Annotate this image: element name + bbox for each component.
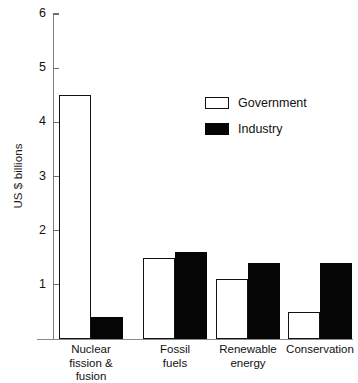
bar-government-0 xyxy=(59,95,91,339)
category-label-line: Conservation xyxy=(270,343,358,357)
y-axis-title: US $ billions xyxy=(12,116,24,236)
y-axis-tick xyxy=(53,68,59,69)
bar-government-2 xyxy=(216,279,248,339)
y-axis-tick-label: 6 xyxy=(24,7,46,20)
y-axis-tick xyxy=(53,13,59,14)
category-label-3: Conservation xyxy=(270,343,358,357)
chart-legend: Government Industry xyxy=(205,93,307,145)
bar-chart: US $ billions 123456 Nuclearfission &fus… xyxy=(0,0,358,383)
category-label-line: energy xyxy=(198,357,298,371)
y-axis-tick-label: 2 xyxy=(24,224,46,237)
x-axis-line xyxy=(37,339,353,340)
bar-industry-0 xyxy=(91,317,123,339)
y-axis-tick-label: 4 xyxy=(24,115,46,128)
filled-square-swatch-icon xyxy=(205,123,229,135)
y-axis-tick-label: 1 xyxy=(24,278,46,291)
y-axis-tick-label: 5 xyxy=(24,61,46,74)
legend-item-industry: Industry xyxy=(205,119,307,139)
open-square-swatch-icon xyxy=(205,97,229,109)
category-label-line: fusion xyxy=(41,370,141,383)
bar-industry-2 xyxy=(248,263,280,339)
legend-label-industry: Industry xyxy=(238,122,282,136)
legend-item-government: Government xyxy=(205,93,307,113)
legend-label-government: Government xyxy=(238,96,307,110)
bar-government-1 xyxy=(143,258,175,339)
bar-government-3 xyxy=(288,312,320,339)
y-axis-tick-label: 3 xyxy=(24,170,46,183)
bar-industry-3 xyxy=(320,263,352,339)
bar-industry-1 xyxy=(175,252,207,339)
